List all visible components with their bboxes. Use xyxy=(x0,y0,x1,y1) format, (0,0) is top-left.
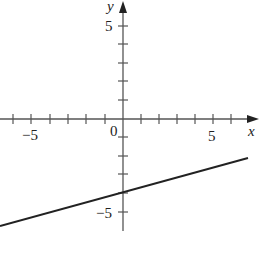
x-axis-label: x xyxy=(247,123,255,139)
x-tick-label-5: 5 xyxy=(208,128,216,144)
x-tick-label-neg5: −5 xyxy=(22,127,38,143)
origin-label: 0 xyxy=(110,123,118,139)
y-axis-arrow-icon xyxy=(119,1,127,13)
y-tick-label-5: 5 xyxy=(105,18,113,34)
coordinate-plane: y 5 0 −5 5 x −5 xyxy=(0,0,265,255)
plotted-line xyxy=(0,158,248,226)
y-axis-label: y xyxy=(105,0,114,14)
y-tick-label-neg5: −5 xyxy=(96,205,112,221)
x-axis-arrow-icon xyxy=(247,115,259,123)
